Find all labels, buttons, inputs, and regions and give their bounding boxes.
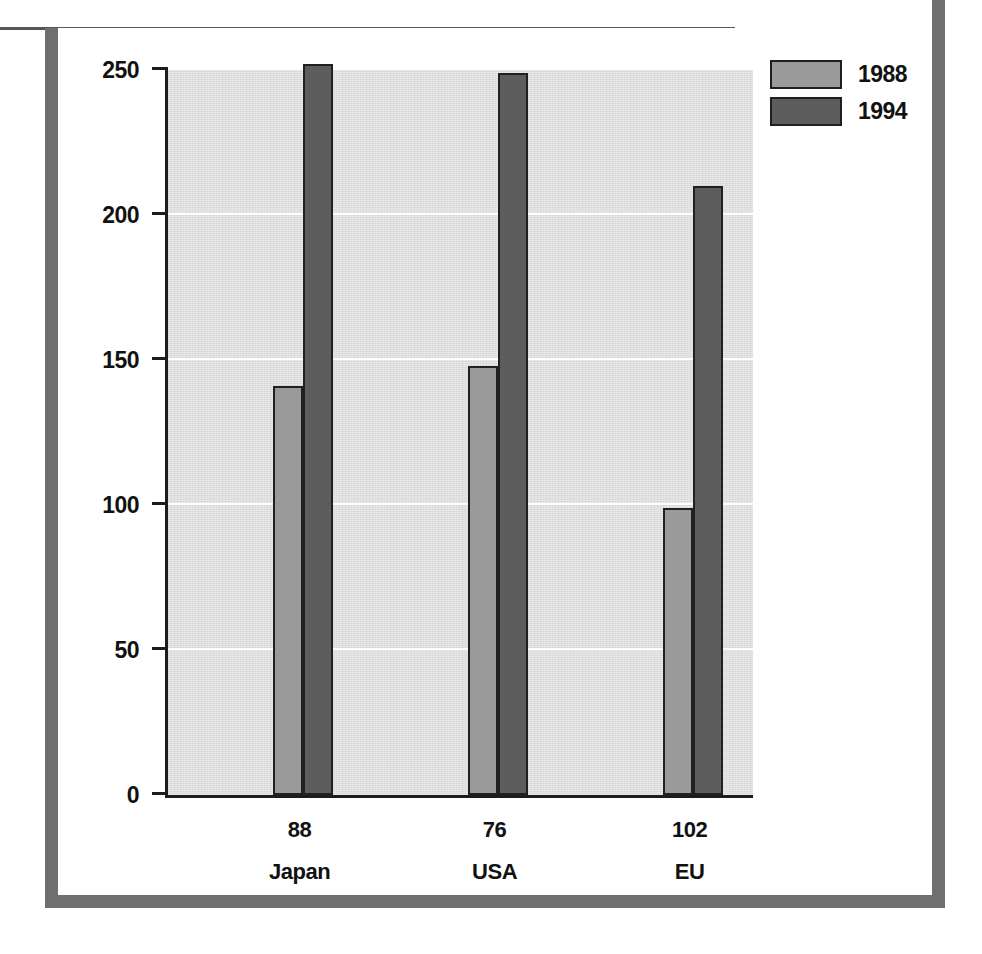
x-axis-name-eu: EU [672,859,707,885]
bar-eu-1988 [663,508,693,795]
gridline-200 [168,213,753,215]
chart-legend: 1988 1994 [770,58,907,132]
frame-border-left [45,28,58,908]
y-axis-label-50: 50 [58,637,139,664]
x-axis-value-usa: 76 [472,817,517,843]
legend-label-1988: 1988 [858,61,907,88]
x-axis-group-eu: 102EU [672,817,707,885]
y-axis-label-250: 250 [58,57,139,84]
x-axis-name-japan: Japan [269,859,330,885]
y-tick-200 [152,212,168,215]
x-axis-name-usa: USA [472,859,517,885]
bar-chart-figure: 250200150100500 88Japan76USA102EU 1988 1… [58,28,932,895]
legend-swatch-1994-icon [770,97,842,126]
x-axis-value-japan: 88 [269,817,330,843]
gridline-100 [168,503,753,505]
bar-usa-1994 [498,73,528,795]
x-axis-group-japan: 88Japan [269,817,330,885]
y-axis-label-200: 200 [58,202,139,229]
gridline-250 [168,68,753,70]
plot-area [165,70,753,798]
legend-item-1988: 1988 [770,58,907,91]
frame-border-right [932,0,945,908]
y-tick-150 [152,357,168,360]
bar-japan-1988 [273,386,303,795]
x-axis-group-usa: 76USA [472,817,517,885]
chart-card: 250200150100500 88Japan76USA102EU 1988 1… [58,28,932,895]
y-tick-50 [152,647,168,650]
y-tick-250 [152,67,168,70]
y-axis-label-0: 0 [58,782,139,809]
y-tick-0 [152,792,168,795]
y-axis-label-100: 100 [58,492,139,519]
x-axis-value-eu: 102 [672,817,707,843]
bar-usa-1988 [468,366,498,795]
y-tick-100 [152,502,168,505]
y-axis-label-150: 150 [58,347,139,374]
gridline-150 [168,358,753,360]
frame-border-bottom [45,895,945,908]
bar-japan-1994 [303,64,333,795]
legend-swatch-1988-icon [770,60,842,89]
bar-eu-1994 [693,186,723,795]
legend-label-1994: 1994 [858,98,907,125]
legend-item-1994: 1994 [770,95,907,128]
